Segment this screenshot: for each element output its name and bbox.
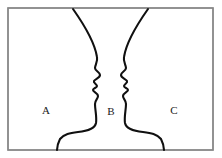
region-label-c: C [170,104,178,116]
figure-border-frame [8,8,213,150]
face-vase-illusion-drawing: A B C [0,0,222,158]
illusion-figure-container: A B C [0,0,222,158]
region-label-a: A [42,104,50,116]
region-label-b: B [107,105,115,117]
